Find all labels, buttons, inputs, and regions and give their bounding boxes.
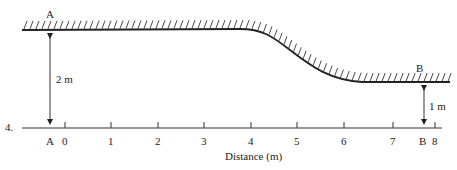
tick-label: 4 (248, 136, 254, 147)
point-b-label-top: B (416, 63, 423, 74)
tick-label: 3 (201, 136, 207, 147)
figure-number: 4. (5, 122, 13, 133)
tick-label: 7 (390, 136, 396, 147)
diagram-canvas (0, 0, 457, 170)
height-b-label: 1 m (429, 101, 446, 112)
point-a-label-top: A (46, 9, 54, 20)
tick-label: 5 (294, 136, 300, 147)
tick-label: 1 (108, 136, 114, 147)
surface-profile (22, 29, 450, 82)
tick-label: 2 (155, 136, 161, 147)
height-a-label: 2 m (56, 74, 73, 85)
tick-label: 0 (62, 136, 68, 147)
axis-title: Distance (m) (225, 151, 282, 162)
axis-ticks (65, 122, 435, 128)
point-b-label-axis: B (419, 136, 426, 147)
tick-label: 8 (432, 136, 438, 147)
tick-label: 6 (341, 136, 347, 147)
point-a-label-axis: A (46, 136, 54, 147)
